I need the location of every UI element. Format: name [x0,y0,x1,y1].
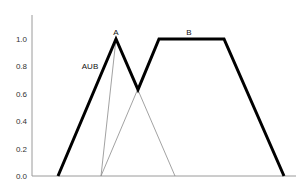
fuzzy-union-chart: 0.00.20.40.60.81.0 ABAUB [0,0,300,190]
y-tick-label: 0.6 [16,90,28,99]
thin-series [101,39,284,176]
y-tick-labels: 0.00.20.40.60.81.0 [16,35,28,181]
annotation-aub: AUB [82,62,98,71]
series-b-line [101,39,284,176]
y-tick-label: 1.0 [16,35,28,44]
thick-series [58,39,284,176]
annotation-a: A [113,28,119,37]
annotations: ABAUB [82,28,192,71]
y-tick-label: 0.4 [16,117,28,126]
series-aub-line [58,39,284,176]
y-tick-label: 0.0 [16,172,28,181]
y-tick-label: 0.2 [16,145,28,154]
y-tick-label: 0.8 [16,62,28,71]
series-a-line [101,39,175,176]
annotation-b: B [186,28,191,37]
